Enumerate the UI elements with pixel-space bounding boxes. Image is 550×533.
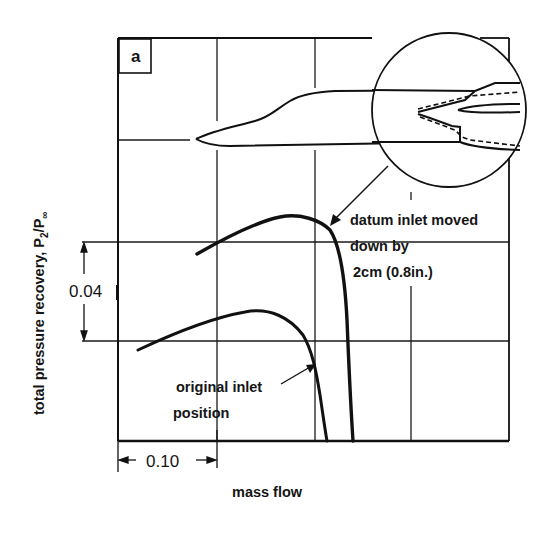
chart-figure: a datum inle [0,0,550,533]
annotation-datum-line3: 2cm (0.8in.) [353,264,433,280]
annotation-datum-line1: datum inlet moved [350,212,478,228]
annotation-original-line2: position [173,405,229,421]
panel-label: a [119,39,151,73]
svg-text:total pressure recovery, P2/P∞: total pressure recovery, P2/P∞ [31,212,50,415]
x-scale-label: 0.10 [146,452,179,471]
annotation-datum-line2: down by [350,238,409,254]
original-inlet-pointer [281,364,316,384]
inlet-magnifier-inset [372,33,526,187]
annotation-original-line1: original inlet [176,379,262,395]
panel-label-text: a [131,47,141,66]
y-axis-label: total pressure recovery, P2/P∞ [31,212,50,415]
curve-original-inlet [138,311,327,441]
y-scale-label: 0.04 [69,282,102,301]
x-axis-label: mass flow [232,484,303,500]
